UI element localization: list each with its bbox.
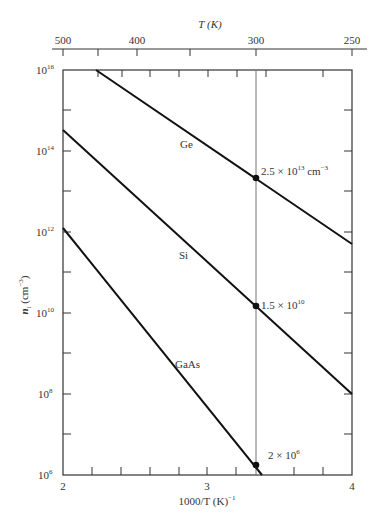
x-axis-title: 1000/T (K)−1 <box>178 494 236 508</box>
series-label-gaas: GaAs <box>175 358 200 370</box>
ni-vs-temperature-chart: 500 400 300 250 T (K) <box>0 0 375 521</box>
inner-top-ticks <box>98 70 323 77</box>
series-label-si: Si <box>179 249 188 261</box>
plot-frame <box>63 70 352 475</box>
top-tick-300: 300 <box>248 34 265 46</box>
series-line-ge <box>96 70 352 244</box>
top-tick-400: 400 <box>129 34 146 46</box>
point-ge-300k <box>253 175 260 182</box>
x-tick-2: 2 <box>60 480 66 492</box>
svg-text:1010: 1010 <box>36 306 55 319</box>
top-axis-title: T (K) <box>198 18 222 31</box>
y-tick-labels: 1016 1014 1012 1010 108 106 <box>36 63 55 481</box>
x-tick-4: 4 <box>349 480 355 492</box>
svg-text:108: 108 <box>38 387 53 400</box>
point-gaas-300k <box>253 462 260 469</box>
svg-text:1012: 1012 <box>36 225 55 238</box>
top-tick-500: 500 <box>55 34 72 46</box>
series-line-gaas <box>63 228 262 475</box>
y-ticks-left <box>63 110 71 434</box>
top-tick-250: 250 <box>344 34 361 46</box>
point-si-300k <box>253 303 260 310</box>
x-tick-3: 3 <box>204 480 210 492</box>
x-ticks-bottom <box>92 467 323 475</box>
annotation-si: 1.5 × 1010 <box>261 298 305 311</box>
y-axis-title: ni (cm−3) <box>17 275 33 314</box>
series-label-ge: Ge <box>180 138 193 150</box>
svg-text:1016: 1016 <box>36 63 55 76</box>
svg-text:1014: 1014 <box>36 144 55 157</box>
annotation-ge: 2.5 × 1013 cm−3 <box>261 164 329 177</box>
annotation-gaas: 2 × 106 <box>268 448 300 461</box>
svg-text:106: 106 <box>38 468 53 481</box>
y-ticks-right <box>344 110 352 434</box>
top-temperature-axis: 500 400 300 250 T (K) <box>52 18 367 56</box>
